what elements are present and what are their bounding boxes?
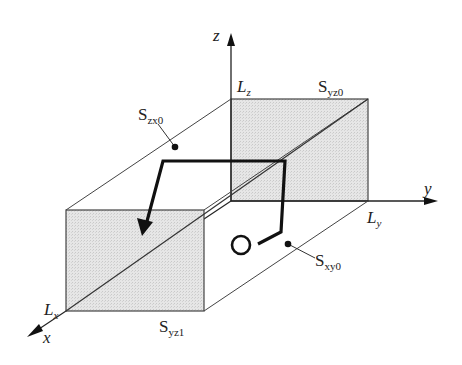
x-axis-arrow-icon [27, 324, 43, 337]
szx0-label: Szx0 [138, 106, 163, 123]
syz0-label: Syz0 [318, 78, 343, 95]
lx-label: Lx [44, 301, 58, 318]
trajectory-start-circle-icon [232, 236, 250, 254]
szx0-dot-icon [172, 144, 179, 151]
sxy0-dot-icon [285, 241, 292, 248]
edge-bottom-right [204, 201, 368, 311]
y-axis-label: y [424, 180, 432, 197]
z-axis-arrow-icon [227, 33, 235, 46]
box-diagram: z y x Lz Ly Lx Syz0 Szx0 Sxy0 Syz1 [0, 0, 462, 365]
sxy0-label: Sxy0 [315, 252, 341, 269]
face-syz0 [231, 99, 368, 201]
szx0-leader [158, 124, 175, 147]
diagonal-line [66, 99, 368, 311]
x-axis-label: x [43, 329, 51, 346]
lz-label: Lz [237, 78, 251, 95]
syz1-label: Syz1 [159, 318, 184, 335]
z-axis-label: z [213, 27, 220, 44]
diagram-canvas [0, 0, 462, 365]
ly-label: Ly [367, 209, 381, 226]
y-axis-arrow-icon [424, 197, 438, 205]
